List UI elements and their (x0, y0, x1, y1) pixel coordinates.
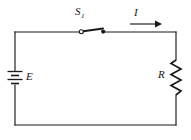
battery-symbol (8, 72, 23, 84)
switch-label-subscript: 1 (81, 12, 85, 20)
switch-label-letter: S (75, 5, 81, 17)
resistance-label: R (158, 69, 165, 80)
current-label: I (134, 7, 138, 18)
resistor-zigzag (171, 60, 181, 95)
switch-blade[interactable] (82, 29, 104, 32)
current-arrow (130, 20, 162, 27)
circuit-diagram: S1 I E R (0, 0, 191, 140)
switch-terminal-filled-dot (101, 30, 105, 34)
current-arrow-head (155, 20, 162, 27)
switch-label: S1 (75, 6, 84, 17)
switch-terminal-open-circle (79, 30, 83, 34)
emf-label: E (26, 71, 33, 82)
switch-symbol[interactable] (79, 29, 105, 34)
